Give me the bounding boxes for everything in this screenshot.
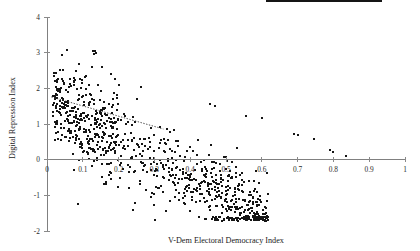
data-point: [267, 193, 269, 195]
data-point: [139, 183, 141, 185]
data-point: [131, 139, 133, 141]
data-point: [380, 0, 382, 2]
y-axis-title: Digital Repression Index: [8, 77, 17, 159]
data-point: [262, 218, 264, 220]
data-point: [241, 206, 243, 208]
data-point: [114, 121, 116, 123]
data-point: [63, 127, 65, 129]
data-point: [211, 188, 213, 190]
data-point: [84, 120, 86, 122]
data-point: [100, 154, 102, 156]
data-point: [267, 216, 269, 218]
data-point: [70, 85, 72, 87]
data-point: [113, 117, 115, 119]
x-tick-label: 0.7: [293, 165, 303, 174]
data-point: [216, 205, 218, 207]
data-point: [149, 146, 151, 148]
data-point: [213, 167, 215, 169]
data-point: [177, 182, 179, 184]
data-point: [123, 113, 125, 115]
data-point: [201, 168, 203, 170]
data-point: [55, 107, 57, 109]
data-point-outlier: [92, 50, 94, 52]
x-tick-label: 0.2: [114, 165, 124, 174]
data-point: [171, 150, 173, 152]
data-point: [100, 90, 102, 92]
data-point: [199, 200, 201, 202]
data-point: [74, 79, 76, 81]
data-point: [256, 204, 258, 206]
data-point: [241, 190, 243, 192]
data-point: [240, 212, 242, 214]
data-point: [236, 147, 238, 149]
data-point: [90, 94, 92, 96]
data-point: [112, 98, 114, 100]
data-point: [81, 119, 83, 121]
data-point: [264, 213, 266, 215]
data-point: [182, 173, 184, 175]
data-point: [227, 216, 229, 218]
data-point: [148, 137, 150, 139]
data-point: [90, 124, 92, 126]
data-point: [97, 118, 99, 120]
data-point: [128, 187, 130, 189]
data-point: [250, 219, 252, 221]
data-point: [102, 107, 104, 109]
data-point: [189, 179, 191, 181]
data-point: [257, 198, 259, 200]
data-point: [218, 195, 220, 197]
data-point: [101, 125, 103, 127]
data-point: [112, 133, 114, 135]
data-point: [250, 194, 252, 196]
data-point: [68, 140, 70, 142]
data-point: [182, 171, 184, 173]
data-point: [105, 150, 107, 152]
data-point: [96, 157, 98, 159]
data-point: [112, 104, 114, 106]
data-point: [198, 216, 200, 218]
data-point: [253, 190, 255, 192]
data-point: [248, 216, 250, 218]
data-point: [94, 123, 96, 125]
data-point: [205, 218, 207, 220]
data-point: [76, 88, 78, 90]
data-point: [199, 188, 201, 190]
data-point: [117, 103, 119, 105]
data-point: [331, 0, 333, 2]
data-point: [305, 0, 307, 2]
data-point: [93, 103, 95, 105]
data-point: [101, 136, 103, 138]
data-point: [234, 211, 236, 213]
regression-trendline: [51, 97, 163, 129]
data-point: [53, 75, 55, 77]
data-point: [205, 173, 207, 175]
data-point: [108, 163, 110, 165]
data-point: [175, 174, 177, 176]
data-point: [139, 138, 141, 140]
data-point: [211, 168, 213, 170]
data-point: [86, 116, 88, 118]
data-point: [248, 180, 250, 182]
data-point: [105, 152, 107, 154]
data-point: [246, 219, 248, 221]
data-point: [141, 143, 143, 145]
data-point: [186, 177, 188, 179]
data-point: [169, 148, 171, 150]
data-point: [163, 168, 165, 170]
data-point: [204, 166, 206, 168]
data-point: [110, 118, 112, 120]
data-point-outlier: [313, 138, 315, 140]
data-point: [196, 190, 198, 192]
data-point: [259, 195, 261, 197]
data-point: [110, 142, 112, 144]
data-point: [61, 54, 63, 56]
data-point: [239, 218, 241, 220]
data-point: [256, 217, 258, 219]
data-point: [83, 101, 85, 103]
data-point: [150, 127, 152, 129]
data-point: [353, 0, 355, 2]
data-point: [88, 118, 90, 120]
data-point: [145, 189, 147, 191]
data-point: [192, 191, 194, 193]
data-point: [244, 209, 246, 211]
